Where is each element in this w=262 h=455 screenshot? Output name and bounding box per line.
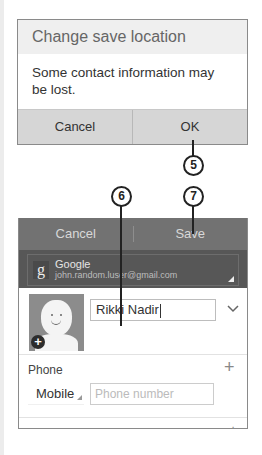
dialog-message: Some contact information may be lost. <box>18 54 247 117</box>
name-field[interactable]: Rikki Nadir <box>90 299 216 321</box>
phone-type-select[interactable]: Mobile <box>28 383 84 405</box>
text-cursor <box>160 304 161 318</box>
avatar-eye-icon <box>51 314 53 316</box>
dropdown-corner-icon <box>228 276 234 282</box>
callout-7: 7 <box>183 186 204 207</box>
dialog-title: Change save location <box>18 20 247 54</box>
callout-6-leader <box>120 206 122 326</box>
email-label: Email <box>28 426 58 429</box>
dialog-cancel-button[interactable]: Cancel <box>18 110 132 144</box>
account-text: Google john.random.luser@gmail.com <box>55 259 177 281</box>
change-save-location-dialog: Change save location Some contact inform… <box>17 19 248 145</box>
add-photo-icon[interactable]: + <box>31 335 45 349</box>
callout-7-leader <box>192 206 194 234</box>
phone-label: Phone <box>28 363 63 377</box>
avatar-eye-icon <box>60 314 62 316</box>
name-row: + Rikki Nadir <box>19 288 247 355</box>
phone-number-input[interactable]: Phone number <box>90 383 214 405</box>
email-section: Email + <box>19 418 247 429</box>
google-icon: g <box>33 261 49 279</box>
dialog-button-bar: Cancel OK <box>18 109 247 144</box>
dropdown-corner-icon <box>77 395 82 400</box>
contact-editor: Cancel Save g Google john.random.luser@g… <box>18 218 248 429</box>
contact-photo[interactable]: + <box>29 294 84 351</box>
phone-section: Phone + Mobile Phone number <box>19 355 247 418</box>
phone-type-value: Mobile <box>36 386 74 401</box>
name-value: Rikki Nadir <box>96 302 159 317</box>
add-phone-icon[interactable]: + <box>224 357 235 378</box>
dialog-ok-button[interactable]: OK <box>132 110 247 144</box>
editor-action-bar: Cancel Save <box>19 218 247 250</box>
callout-5: 5 <box>183 155 204 176</box>
account-bar: g Google john.random.luser@gmail.com <box>19 250 247 288</box>
callout-5-leader <box>192 140 194 156</box>
editor-save-button[interactable]: Save <box>134 218 248 250</box>
editor-cancel-button[interactable]: Cancel <box>19 218 133 250</box>
account-email: john.random.luser@gmail.com <box>55 270 177 281</box>
page-edge <box>0 0 4 455</box>
avatar-head-shape <box>41 300 72 336</box>
chevron-down-icon[interactable] <box>227 302 239 314</box>
add-email-icon[interactable]: + <box>229 422 237 429</box>
account-selector[interactable]: g Google john.random.luser@gmail.com <box>27 254 239 286</box>
callout-6: 6 <box>111 186 132 207</box>
account-name: Google <box>55 259 177 270</box>
